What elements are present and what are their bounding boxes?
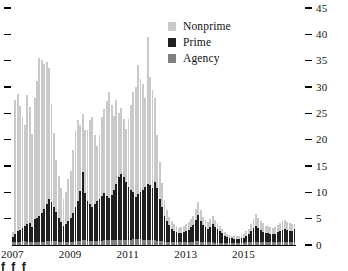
y-axis-tick-label: 45 [316,3,327,14]
y-tick-left [4,7,11,8]
x-axis-line [12,245,296,246]
y-tick-left [4,60,11,61]
y-axis-tick-label: 35 [316,55,327,66]
y-axis-tick-label: 10 [316,187,327,198]
y-axis-tick-label: 20 [316,134,327,145]
y-axis-tick-label: 5 [316,213,322,224]
legend-item-agency: Agency [168,50,231,66]
caption-fragment: f f f [1,261,27,271]
legend-item-nonprime: Nonprime [168,18,231,34]
legend-label: Agency [183,52,220,64]
chart-legend: NonprimePrimeAgency [168,18,231,66]
legend-swatch-prime [168,38,176,47]
y-tick-right [305,218,312,219]
legend-swatch-nonprime [168,22,176,31]
y-axis-tick-label: 15 [316,161,327,172]
x-axis-tick-label: 2013 [174,248,197,260]
y-tick-right [305,139,312,140]
x-axis-tick-label: 2007 [1,248,24,260]
x-axis-tick-label: 2011 [117,248,139,260]
x-axis-tick-label: 2015 [232,248,255,260]
y-tick-left [4,86,11,87]
y-tick-right [305,7,312,8]
y-tick-left [4,218,11,219]
y-tick-right [305,244,312,245]
y-axis-tick-label: 0 [316,240,322,251]
y-tick-left [4,165,11,166]
y-tick-right [305,34,312,35]
y-tick-right [305,113,312,114]
y-axis-tick-label: 40 [316,29,327,40]
legend-swatch-agency [168,54,176,63]
legend-label: Prime [183,36,211,48]
y-tick-right [305,192,312,193]
bar [294,224,296,245]
chart-figure: 051015202530354045 20072009201120132015 … [0,0,348,271]
y-tick-left [4,192,11,193]
bar-series-container [12,8,296,245]
y-axis-tick-label: 30 [316,82,327,93]
x-axis-tick-label: 2009 [59,248,82,260]
y-axis-tick-label: 25 [316,108,327,119]
legend-item-prime: Prime [168,34,231,50]
y-tick-left [4,34,11,35]
plot-area [12,8,296,245]
y-tick-left [4,139,11,140]
bar-segment-prime [294,229,296,242]
y-tick-right [305,165,312,166]
y-tick-right [305,86,312,87]
y-tick-right [305,60,312,61]
legend-label: Nonprime [183,20,231,32]
y-tick-left [4,113,11,114]
